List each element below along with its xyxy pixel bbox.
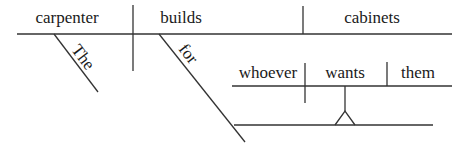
preposition-line <box>159 34 245 142</box>
verb-word: builds <box>160 8 202 27</box>
article-word: The <box>68 41 99 74</box>
clause-subject-word: whoever <box>239 63 298 82</box>
sentence-diagram: carpenter builds cabinets The for whoeve… <box>0 0 470 155</box>
pedestal-triangle-icon <box>335 111 355 125</box>
object-word: cabinets <box>344 8 400 27</box>
clause-object-word: them <box>401 63 435 82</box>
clause-verb-word: wants <box>325 63 365 82</box>
preposition-word: for <box>175 40 202 68</box>
subject-word: carpenter <box>35 8 99 27</box>
